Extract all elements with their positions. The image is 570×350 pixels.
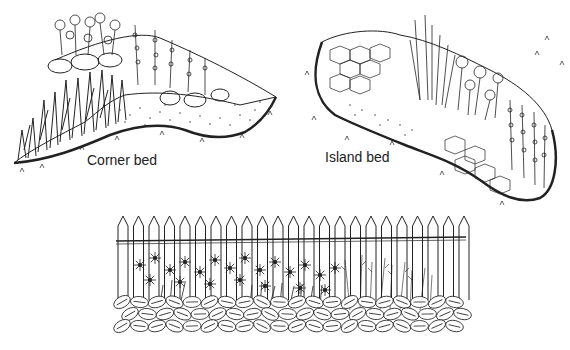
corner-bed-drawing xyxy=(14,13,276,172)
fence-border-drawing xyxy=(111,216,472,335)
garden-bed-illustrations xyxy=(0,0,570,350)
island-bed-label: Island bed xyxy=(325,149,390,165)
island-bed-drawing xyxy=(305,15,564,205)
corner-bed-label: Corner bed xyxy=(87,152,157,168)
